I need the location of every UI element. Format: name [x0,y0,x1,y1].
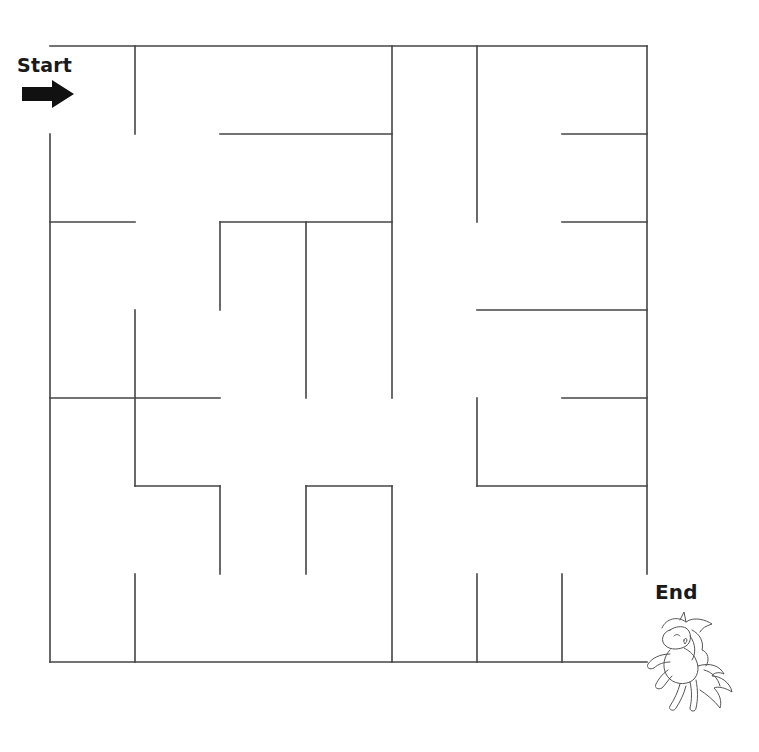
right-arrow-icon [22,80,74,108]
unicorn-icon [640,610,740,715]
end-label: End [655,580,698,604]
start-label: Start [17,54,72,76]
